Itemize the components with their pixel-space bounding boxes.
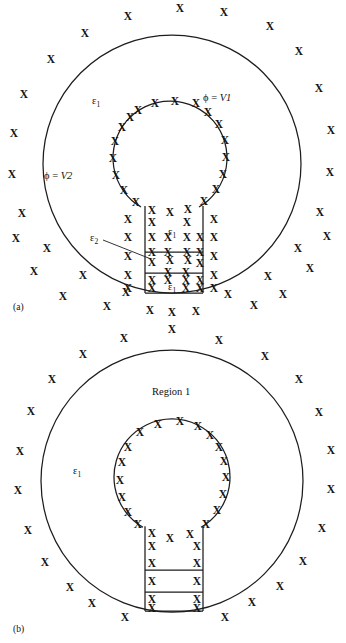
cross-mark-x: X: [219, 168, 228, 180]
cross-mark-x: X: [192, 305, 201, 317]
cross-mark-x: X: [306, 262, 315, 274]
cross-mark-x: X: [196, 231, 205, 243]
cross-mark-x: X: [124, 282, 133, 294]
cross-mark-x: X: [118, 456, 127, 468]
cross-mark-x: X: [224, 288, 233, 300]
cross-mark-x: X: [148, 282, 157, 294]
cross-mark-x: X: [18, 207, 27, 219]
cross-mark-x: X: [121, 611, 130, 623]
cross-mark-x: X: [120, 332, 129, 344]
cross-mark-x: X: [118, 491, 127, 503]
cross-mark-x: X: [210, 250, 219, 262]
cross-mark-x: X: [171, 95, 180, 107]
cross-mark-x: X: [154, 418, 163, 430]
cross-mark-x: X: [222, 471, 231, 483]
cross-mark-x: X: [266, 20, 275, 32]
cross-mark-x: X: [66, 581, 75, 593]
cross-mark-x: X: [81, 27, 90, 39]
cross-mark-x: X: [318, 522, 327, 534]
cross-mark-x: X: [294, 242, 303, 254]
cross-mark-x: X: [166, 532, 175, 544]
cross-mark-x: X: [221, 611, 230, 623]
label-potential-v2: ϕ = V2: [44, 170, 73, 181]
cross-mark-x: X: [327, 483, 336, 495]
cross-mark-x: X: [124, 441, 133, 453]
cross-mark-x: X: [315, 406, 324, 418]
cross-mark-x: X: [326, 166, 335, 178]
cross-mark-x: X: [148, 527, 157, 539]
cross-mark-x: X: [210, 282, 219, 294]
cross-mark-x: X: [148, 602, 157, 614]
cross-mark-x: X: [193, 540, 202, 552]
cross-mark-x: X: [111, 135, 120, 147]
figure-root: XXXXXXXXXXXXXXXXXXXXXXXXXXXXXXXXXXXXXXXX…: [0, 0, 346, 643]
cross-mark-x: X: [200, 195, 209, 207]
cross-mark-x: X: [148, 256, 157, 268]
cross-mark-x: X: [193, 602, 202, 614]
cross-mark-x: X: [59, 290, 68, 302]
cross-mark-x: X: [168, 306, 177, 318]
cross-mark-x: X: [48, 373, 57, 385]
label-region-1: Region 1: [152, 386, 190, 397]
cross-mark-x: X: [166, 254, 175, 266]
panel-b: XXXXXXXXXXXXXXXXXXXXXXXXXXXXXXXXXXXXXXXX…: [13, 323, 336, 635]
cross-mark-x: X: [250, 299, 259, 311]
figure-canvas: XXXXXXXXXXXXXXXXXXXXXXXXXXXXXXXXXXXXXXXX…: [0, 0, 346, 643]
cross-mark-x: X: [315, 82, 324, 94]
cross-mark-x: X: [264, 270, 273, 282]
cross-mark-x: X: [134, 104, 143, 116]
cross-mark-x: X: [134, 518, 143, 530]
cross-mark-x: X: [124, 10, 133, 22]
cross-mark-x: X: [323, 230, 332, 242]
cross-mark-x: X: [295, 45, 304, 57]
cross-mark-x: X: [148, 575, 157, 587]
cross-mark-x: X: [116, 474, 125, 486]
cross-mark-x: X: [126, 111, 135, 123]
cross-mark-x: X: [213, 504, 222, 516]
cross-mark-x: X: [20, 88, 29, 100]
cross-mark-x: X: [132, 196, 141, 208]
cross-mark-x: X: [221, 134, 230, 146]
cross-mark-x: X: [148, 231, 157, 243]
cross-mark-x: X: [327, 444, 336, 456]
cross-mark-x: X: [10, 127, 19, 139]
cross-mark-x: X: [222, 151, 231, 163]
cross-mark-x: X: [176, 415, 185, 427]
cross-mark-x: X: [41, 556, 50, 568]
cross-mark-x: X: [183, 216, 192, 228]
cross-mark-x: X: [184, 203, 193, 215]
label-permittivity-outer-b: ε1: [73, 465, 81, 480]
cross-mark-x: X: [183, 231, 192, 243]
cross-mark-x: X: [136, 426, 145, 438]
cross-mark-x: X: [109, 152, 118, 164]
cross-mark-x: X: [212, 183, 221, 195]
cross-mark-x: X: [148, 216, 157, 228]
panel-a-cross-marks: XXXXXXXXXXXXXXXXXXXXXXXXXXXXXXXXXXXXXXXX…: [8, 2, 336, 318]
label-permittivity-outer-a: ε1: [92, 95, 100, 110]
cross-mark-x: X: [204, 106, 213, 118]
cross-mark-x: X: [12, 232, 21, 244]
cross-mark-x: X: [206, 429, 215, 441]
cross-mark-x: X: [261, 350, 270, 362]
cross-mark-x: X: [220, 455, 229, 467]
cross-mark-x: X: [120, 184, 129, 196]
cross-mark-x: X: [124, 250, 133, 262]
cross-mark-x: X: [103, 300, 112, 312]
cross-mark-x: X: [193, 557, 202, 569]
cross-mark-x: X: [192, 97, 201, 109]
cross-mark-x: X: [215, 118, 224, 130]
panel-b-cross-marks: XXXXXXXXXXXXXXXXXXXXXXXXXXXXXXXXXXXXXXXX…: [14, 323, 336, 623]
cross-mark-x: X: [196, 282, 205, 294]
cross-mark-x: X: [148, 540, 157, 552]
panel-caption-b: (b): [13, 624, 24, 635]
cross-mark-x: X: [8, 168, 17, 180]
cross-mark-x: X: [184, 254, 193, 266]
cross-mark-x: X: [24, 524, 33, 536]
cross-mark-x: X: [148, 204, 157, 216]
cross-mark-x: X: [124, 269, 133, 281]
cross-mark-x: X: [219, 488, 228, 500]
cross-mark-x: X: [327, 124, 336, 136]
cross-mark-x: X: [182, 282, 191, 294]
cross-mark-x: X: [248, 596, 257, 608]
cross-mark-x: X: [276, 580, 285, 592]
